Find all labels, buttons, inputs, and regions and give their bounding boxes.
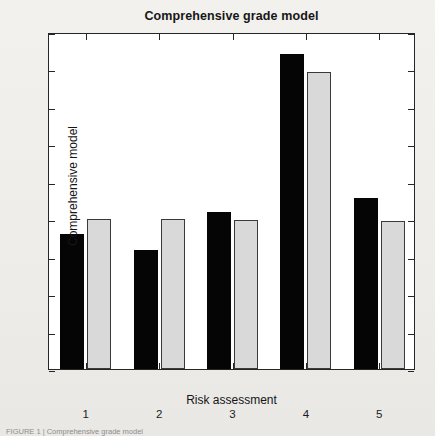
y-tick xyxy=(49,259,55,260)
y-tick xyxy=(49,71,55,72)
x-tick xyxy=(159,363,160,369)
x-tick-top xyxy=(379,34,380,40)
y-tick xyxy=(49,146,55,147)
y-tick-right xyxy=(408,334,414,335)
x-axis-title: Risk assessment xyxy=(48,393,415,407)
chart-title: Comprehensive grade model xyxy=(48,9,415,23)
x-tick-top xyxy=(233,34,234,40)
bar-series-b-2 xyxy=(161,219,185,369)
y-tick-right xyxy=(408,34,414,35)
bar-series-a-4 xyxy=(280,54,304,369)
x-tick xyxy=(306,363,307,369)
x-tick-label: 2 xyxy=(139,408,179,420)
bar-series-b-5 xyxy=(381,221,405,369)
bar-group xyxy=(280,34,331,369)
x-tick-top xyxy=(86,34,87,40)
y-tick-right xyxy=(408,221,414,222)
figure-container: Comprehensive grade model 00.511.522.533… xyxy=(0,0,435,436)
bar-series-b-1 xyxy=(87,219,111,369)
y-tick-right xyxy=(408,296,414,297)
bar-group xyxy=(134,34,185,369)
x-tick xyxy=(86,363,87,369)
y-tick-right xyxy=(408,71,414,72)
bar-series-a-5 xyxy=(354,198,378,369)
y-tick xyxy=(49,109,55,110)
bars-layer xyxy=(49,34,414,369)
bar-series-a-2 xyxy=(134,250,158,369)
x-tick-label: 1 xyxy=(66,408,106,420)
y-tick xyxy=(49,296,55,297)
x-tick-top xyxy=(306,34,307,40)
y-tick xyxy=(49,334,55,335)
x-tick-label: 4 xyxy=(286,408,326,420)
figure-caption: FIGURE 1 | Comprehensive grade model xyxy=(6,427,426,436)
bar-group xyxy=(354,34,405,369)
bar-series-a-3 xyxy=(207,212,231,369)
y-tick xyxy=(49,184,55,185)
y-axis-title: Comprehensive model xyxy=(66,96,80,276)
y-tick-right xyxy=(408,259,414,260)
y-tick xyxy=(49,371,55,372)
y-tick xyxy=(49,34,55,35)
x-tick-top xyxy=(159,34,160,40)
bar-series-b-4 xyxy=(307,72,331,369)
x-tick xyxy=(379,363,380,369)
plot-area: 00.511.522.533.544.5 12345 Comprehensive… xyxy=(48,33,415,370)
y-tick-right xyxy=(408,146,414,147)
bar-group xyxy=(207,34,258,369)
x-tick-label: 5 xyxy=(359,408,399,420)
y-tick-right xyxy=(408,184,414,185)
bar-series-b-3 xyxy=(234,220,258,369)
y-tick-right xyxy=(408,109,414,110)
y-tick xyxy=(49,221,55,222)
x-tick-label: 3 xyxy=(213,408,253,420)
x-tick xyxy=(233,363,234,369)
y-tick-right xyxy=(408,371,414,372)
